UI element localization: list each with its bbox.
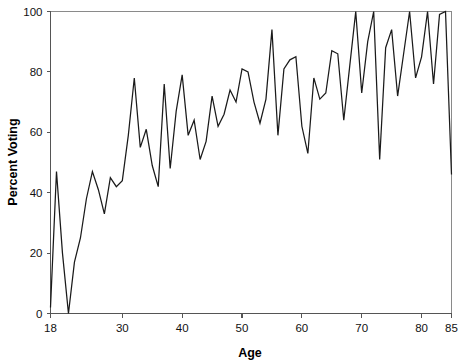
x-axis-title: Age [238,346,262,360]
x-tick-label: 40 [176,322,189,334]
y-tick-label: 60 [30,126,43,138]
y-tick-label: 100 [23,6,42,18]
x-tick-label: 30 [116,322,129,334]
y-axis-title: Percent Voting [6,118,20,205]
plot-frame [51,12,452,314]
y-tick-label: 80 [30,66,43,78]
data-line-percent-voting [51,12,452,314]
y-tick-label: 0 [36,308,42,320]
x-tick-label: 50 [236,322,249,334]
x-tick-label: 60 [295,322,308,334]
axis-ticks [47,12,452,318]
data-series-group [51,12,452,314]
chart-figure: 0204060801001830405060708085 Age Percent… [0,0,459,363]
x-tick-label: 80 [415,322,428,334]
y-tick-label: 20 [30,247,43,259]
x-tick-label: 85 [445,322,458,334]
line-chart: 0204060801001830405060708085 Age Percent… [0,0,459,363]
x-tick-label: 18 [44,322,57,334]
axis-tick-labels: 0204060801001830405060708085 [23,6,458,334]
y-tick-label: 40 [30,187,43,199]
x-tick-label: 70 [355,322,368,334]
